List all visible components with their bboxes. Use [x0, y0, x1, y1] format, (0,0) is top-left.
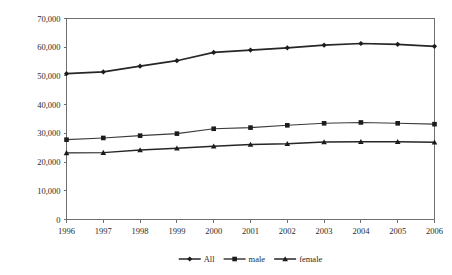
x-tick-label: 2002 — [279, 226, 296, 236]
y-tick-label: 10,000 — [37, 186, 60, 196]
chart-container: 010,00020,00030,00040,00050,00060,00070,… — [0, 0, 452, 275]
legend-label-all: All — [204, 254, 216, 264]
marker-square — [232, 257, 237, 262]
x-tick-label: 2004 — [352, 226, 370, 236]
y-tick-label: 40,000 — [37, 100, 60, 110]
legend-label-male: male — [249, 254, 266, 264]
x-tick-label: 1996 — [58, 226, 75, 236]
marker-square — [138, 133, 143, 138]
marker-square — [175, 131, 180, 136]
marker-square — [395, 121, 400, 126]
x-tick-label: 2001 — [242, 226, 259, 236]
marker-square — [248, 125, 253, 130]
y-tick-label: 30,000 — [37, 128, 60, 138]
x-tick-label: 1999 — [168, 226, 185, 236]
legend-label-female: female — [299, 254, 322, 264]
marker-square — [101, 136, 106, 141]
y-tick-label: 0 — [56, 215, 60, 225]
marker-square — [432, 122, 437, 127]
marker-square — [211, 126, 216, 131]
x-tick-label: 2003 — [316, 226, 333, 236]
x-tick-label: 2006 — [426, 226, 443, 236]
y-tick-label: 60,000 — [37, 42, 60, 52]
y-tick-label: 70,000 — [37, 14, 60, 24]
x-tick-label: 1997 — [95, 226, 112, 236]
x-tick-label: 2000 — [205, 226, 222, 236]
marker-square — [285, 123, 290, 128]
line-chart: 010,00020,00030,00040,00050,00060,00070,… — [0, 0, 452, 275]
marker-square — [359, 120, 364, 125]
marker-square — [322, 121, 327, 126]
x-tick-label: 2005 — [389, 226, 406, 236]
marker-square — [64, 137, 69, 142]
y-tick-label: 20,000 — [37, 157, 60, 167]
x-tick-label: 1998 — [132, 226, 149, 236]
y-tick-label: 50,000 — [37, 71, 60, 81]
